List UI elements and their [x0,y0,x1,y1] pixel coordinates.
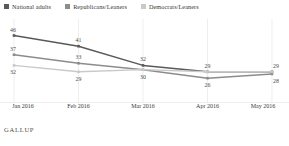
legend-item-republicans-leaners: Republicans/Leaners [65,3,127,10]
chart-x-axis: Jan 2016Feb 2016Mar 2016Apr 2016May 2016 [0,103,289,117]
data-label: 28 [273,78,279,84]
legend-item-democrats-leaners: Democrats/Leaners [141,3,199,10]
data-label: 29 [76,76,82,82]
x-axis-label: May 2016 [251,103,276,109]
legend-item-national-adults: National adults [4,3,51,10]
legend-swatch-democrats-leaners [141,4,146,9]
chart-container: National adults Republicans/Leaners Demo… [0,0,289,146]
data-label: 46 [10,27,16,33]
legend-swatch-republicans-leaners [65,4,70,9]
legend-label-republicans-leaners: Republicans/Leaners [73,3,127,10]
data-label: 41 [76,37,82,43]
legend-label-democrats-leaners: Democrats/Leaners [149,3,199,10]
data-label: 26 [205,82,211,88]
data-label: 32 [140,56,146,62]
data-label: 32 [10,69,16,75]
data-label: 30 [140,74,146,80]
legend-swatch-national-adults [4,4,9,9]
x-axis-label: Apr 2016 [196,103,219,109]
data-label: 29 [205,63,211,69]
data-label: 33 [76,54,82,60]
gallup-brand: GALLUP [4,126,34,133]
data-label: 37 [10,46,16,52]
data-label: 29 [273,63,279,69]
x-axis-label: Jan 2016 [12,103,34,109]
legend-label-national-adults: National adults [12,3,51,10]
chart-legend: National adults Republicans/Leaners Demo… [4,3,199,10]
x-axis-label: Mar 2016 [131,103,155,109]
x-axis-label: Feb 2016 [67,103,90,109]
